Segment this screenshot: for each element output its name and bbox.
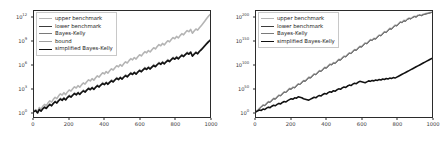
x-tick-label: 400	[99, 121, 109, 127]
legend-item: bound	[39, 38, 113, 46]
x-tick-mark	[326, 118, 327, 120]
x-tick-label: 1000	[426, 121, 439, 127]
x-tick-mark	[68, 118, 69, 120]
legend-item: upper benchmark	[261, 15, 335, 23]
legend-swatch	[261, 18, 274, 19]
x-tick-label: 0	[31, 121, 34, 127]
legend-item: Bayes-Kelly	[261, 30, 335, 38]
legend-right: upper benchmarklower benchmarkBayes-Kell…	[258, 12, 339, 48]
legend-label: lower benchmark	[55, 24, 101, 29]
legend-left: upper benchmarklower benchmarkBayes-Kell…	[36, 12, 117, 56]
legend-swatch	[39, 18, 52, 19]
x-tick-label: 400	[321, 121, 331, 127]
x-tick-label: 800	[170, 121, 180, 127]
y-axis-left: 1001031061091012	[0, 10, 30, 118]
x-tick-mark	[139, 118, 140, 120]
legend-label: simplified Bayes-Kelly	[277, 39, 335, 44]
y-tick-label: 106	[18, 62, 27, 68]
y-tick-label: 100	[18, 110, 27, 116]
x-tick-label: 200	[286, 121, 296, 127]
legend-item: simplified Bayes-Kelly	[39, 45, 113, 53]
y-tick-label: 103	[18, 86, 27, 92]
legend-label: simplified Bayes-Kelly	[55, 46, 113, 51]
x-tick-mark	[211, 118, 212, 120]
chart-panel-right: 1001050101001015010200 02004006008001000…	[222, 0, 445, 148]
legend-item: upper benchmark	[39, 15, 113, 23]
legend-swatch	[261, 26, 274, 27]
x-tick-label: 1000	[204, 121, 217, 127]
y-tick-label: 100	[240, 110, 249, 116]
series-line	[256, 58, 432, 111]
x-tick-mark	[361, 118, 362, 120]
x-tick-mark	[255, 118, 256, 120]
x-tick-mark	[397, 118, 398, 120]
legend-item: lower benchmark	[261, 23, 335, 31]
x-tick-label: 600	[357, 121, 367, 127]
x-tick-label: 0	[253, 121, 256, 127]
legend-label: lower benchmark	[277, 24, 323, 29]
legend-label: Bayes-Kelly	[55, 31, 85, 36]
x-tick-mark	[290, 118, 291, 120]
y-tick-label: 1012	[16, 14, 27, 20]
legend-swatch	[39, 26, 52, 27]
legend-label: Bayes-Kelly	[277, 31, 307, 36]
y-axis-right: 1001050101001015010200	[222, 10, 252, 118]
figure-two-panel-semilog: 1001031061091012 02004006008001000 upper…	[0, 0, 445, 148]
legend-swatch	[39, 41, 52, 42]
legend-label: upper benchmark	[55, 16, 102, 21]
x-tick-label: 600	[135, 121, 145, 127]
x-tick-mark	[104, 118, 105, 120]
chart-panel-left: 1001031061091012 02004006008001000 upper…	[0, 0, 222, 148]
y-tick-label: 10150	[236, 38, 249, 44]
y-tick-label: 1050	[238, 86, 249, 92]
legend-label: upper benchmark	[277, 16, 324, 21]
y-tick-label: 10200	[236, 14, 249, 20]
legend-item: lower benchmark	[39, 23, 113, 31]
x-tick-label: 800	[392, 121, 402, 127]
y-tick-label: 10100	[236, 62, 249, 68]
legend-item: Bayes-Kelly	[39, 30, 113, 38]
x-tick-mark	[175, 118, 176, 120]
y-tick-label: 109	[18, 38, 27, 44]
x-tick-mark	[33, 118, 34, 120]
x-tick-label: 200	[64, 121, 74, 127]
legend-swatch	[261, 33, 274, 34]
legend-swatch	[39, 49, 52, 50]
legend-swatch	[39, 33, 52, 34]
legend-swatch	[261, 41, 274, 42]
legend-item: simplified Bayes-Kelly	[261, 38, 335, 46]
x-tick-mark	[433, 118, 434, 120]
legend-label: bound	[55, 39, 72, 44]
